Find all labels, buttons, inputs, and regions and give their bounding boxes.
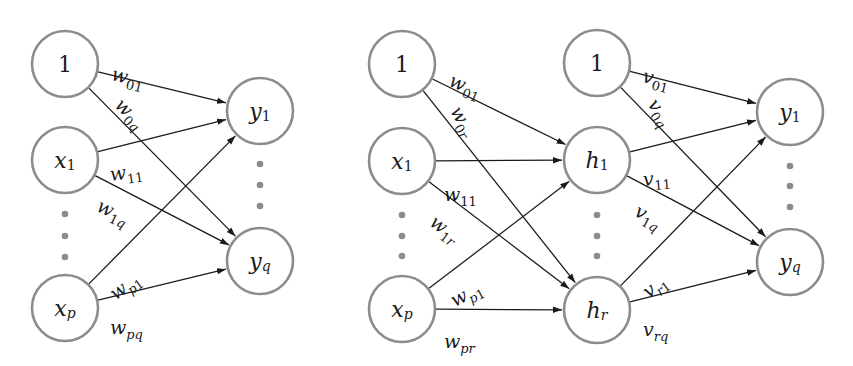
node-bias_h: 1 (564, 30, 630, 96)
ellipsis-dot (62, 233, 69, 240)
ellipsis-dot (787, 204, 794, 211)
node-xp: xp (32, 275, 98, 341)
edge-h1-to-y1 (630, 120, 756, 151)
weight-label-wp1: wp1 (446, 276, 487, 314)
weight-label-w1r: w1r (424, 210, 465, 250)
node-bias: 1 (32, 31, 98, 97)
weight-label-v01: v01 (640, 64, 673, 96)
weight-label-v1q: v1q (629, 199, 665, 235)
node-bias_in: 1 (369, 31, 435, 97)
weight-label-w11: w11 (444, 183, 477, 209)
ellipsis-dot (787, 163, 794, 170)
ellipsis-dot (257, 161, 264, 168)
weight-label-v11: v11 (642, 166, 671, 194)
node-hr: hr (564, 277, 630, 343)
weight-label-w11: w11 (108, 159, 144, 189)
node-label: 1 (58, 52, 72, 77)
ellipsis-dot (257, 203, 264, 210)
node-x1: x1 (369, 128, 435, 194)
ellipsis-dot (594, 212, 601, 219)
nodes-layer: 1x1xpy1yq1x1xp1h1hry1yq (32, 30, 823, 343)
weight-label-wp1: wp1 (105, 267, 147, 307)
node-y1: y1 (227, 78, 293, 144)
neural-network-diagrams: 1x1xpy1yq1x1xp1h1hry1yq w01w0qw11w1qwp1w… (0, 0, 853, 366)
node-y1: y1 (757, 79, 823, 145)
ellipsis-dot (594, 253, 601, 260)
ellipsis-dot (257, 182, 264, 189)
ellipsis-dot (399, 233, 406, 240)
node-yq: yq (757, 229, 823, 295)
ellipsis-dot (399, 212, 406, 219)
node-x1: x1 (32, 127, 98, 193)
node-label: 1 (395, 52, 409, 77)
diagram-canvas: 1x1xpy1yq1x1xp1h1hry1yq w01w0qw11w1qwp1w… (0, 0, 853, 366)
weight-label-w01: w01 (109, 62, 147, 95)
weight-label-vrq: vrq (643, 318, 668, 344)
weight-label-wpr: wpr (444, 330, 476, 356)
weight-label-vr1: vr1 (638, 269, 674, 305)
ellipsis-dot (399, 253, 406, 260)
node-yq: yq (227, 228, 293, 294)
ellipsis-dot (787, 183, 794, 190)
weight-label-wpq: wpq (110, 316, 143, 342)
node-label: 1 (590, 51, 604, 76)
node-xp: xp (369, 276, 435, 342)
ellipsis-dot (62, 254, 69, 261)
edge-x1-to-h1 (436, 160, 562, 161)
ellipsis-dot (594, 233, 601, 240)
ellipsis-dot (62, 211, 69, 218)
node-h1: h1 (564, 127, 630, 193)
weight-label-w01: w01 (445, 69, 485, 105)
weight-label-w1q: w1q (92, 194, 133, 231)
edge-x1-to-y1 (98, 120, 226, 152)
